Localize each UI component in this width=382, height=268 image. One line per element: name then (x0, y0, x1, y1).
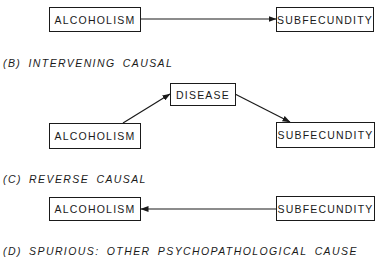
node-a-subfecundity: SUBFECUNDITY (276, 7, 374, 32)
panel-d-label: (D) SPURIOUS: OTHER PSYCHOPATHOLOGICAL C… (3, 245, 358, 257)
node-b-disease: DISEASE (170, 83, 236, 106)
node-b-alcoholism: ALCOHOLISM (49, 123, 141, 149)
edge-b-alcoholism-to-disease (123, 94, 170, 123)
node-b-subfecundity: SUBFECUNDITY (276, 122, 375, 148)
panel-b-label: (B) INTERVENING CAUSAL (3, 57, 173, 69)
edge-b-disease-to-subfecundity (235, 94, 290, 122)
node-c-alcoholism: ALCOHOLISM (49, 197, 141, 221)
node-c-subfecundity: SUBFECUNDITY (276, 196, 375, 221)
node-a-alcoholism: ALCOHOLISM (49, 7, 141, 32)
panel-c-label: (C) REVERSE CAUSAL (3, 173, 147, 185)
